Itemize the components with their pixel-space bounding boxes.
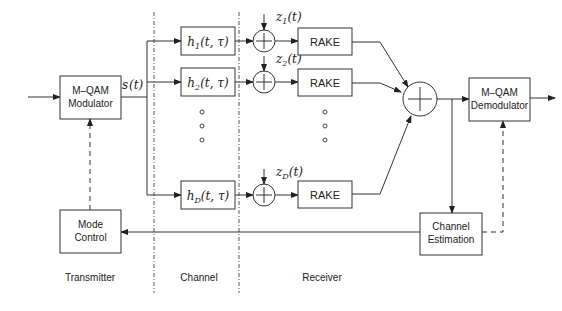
demodulator-label-line1: M–QAM	[481, 87, 518, 98]
svg-text:RAKE: RAKE	[310, 36, 340, 48]
modulator-label-line1: M–QAM	[72, 85, 109, 96]
channel-estimation-block: Channel Estimation	[420, 213, 482, 255]
svg-text:RAKE: RAKE	[310, 189, 340, 201]
svg-text:h1(t, τ): h1(t, τ)	[187, 35, 229, 51]
rake-block-2: RAKE	[298, 69, 352, 96]
section-label-channel: Channel	[180, 272, 217, 283]
channel-block-d: hD(t, τ)	[181, 181, 235, 209]
svg-text:h2(t, τ): h2(t, τ)	[187, 76, 229, 92]
noise-adder-1: z1(t)	[253, 10, 302, 52]
block-diagram: M–QAM Modulator s (t) h1(t, τ) h2(t, τ) …	[0, 0, 562, 311]
modulator-label-line2: Modulator	[68, 98, 113, 109]
svg-text:RAKE: RAKE	[310, 77, 340, 89]
svg-text:z1(t): z1(t)	[275, 10, 302, 26]
rake-block-d: RAKE	[298, 181, 352, 208]
signal-label-arg: (t)	[129, 78, 144, 92]
receiver-ellipsis	[323, 110, 327, 142]
modulator-block: M–QAM Modulator	[60, 76, 121, 119]
signal-label-base: s	[122, 78, 128, 92]
estimation-label-line1: Channel	[432, 221, 469, 232]
channel-block-2: h2(t, τ)	[181, 68, 235, 96]
rake-1-to-combiner	[352, 42, 408, 87]
rake-block-1: RAKE	[298, 28, 352, 55]
channel-ellipsis	[200, 110, 204, 142]
noise-adder-2: z2(t)	[253, 52, 302, 93]
estimation-to-demodulator	[482, 121, 503, 232]
mode-control-block: Mode Control	[60, 210, 121, 253]
demodulator-label-line2: Demodulator	[471, 100, 529, 111]
rake-2-to-combiner	[352, 83, 401, 92]
svg-text:zD(t): zD(t)	[275, 165, 303, 181]
rake-d-to-combiner	[352, 116, 411, 194]
estimation-label-line2: Estimation	[428, 234, 475, 245]
demodulator-block: M–QAM Demodulator	[469, 78, 530, 121]
section-label-receiver: Receiver	[302, 272, 342, 283]
mode-control-label-line1: Mode	[78, 219, 103, 230]
signal-label: s (t)	[122, 78, 144, 92]
channel-block-1: h1(t, τ)	[181, 27, 235, 55]
noise-adder-d: zD(t)	[253, 165, 303, 206]
combiner	[403, 82, 437, 116]
mode-control-label-line2: Control	[74, 232, 106, 243]
svg-text:hD(t, τ): hD(t, τ)	[187, 189, 230, 205]
section-label-transmitter: Transmitter	[65, 272, 116, 283]
